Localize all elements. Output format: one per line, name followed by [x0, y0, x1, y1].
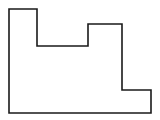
- diagram-canvas: [0, 0, 160, 120]
- stepped-polygon-outline: [9, 9, 151, 113]
